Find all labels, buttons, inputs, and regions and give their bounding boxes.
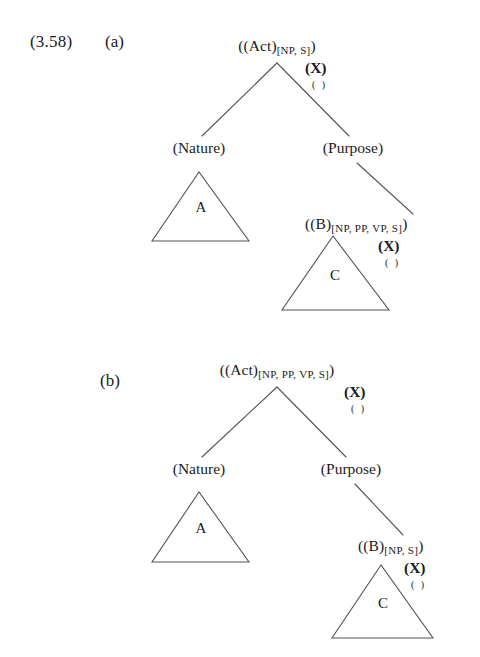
tree-b-root-close: ) xyxy=(329,361,334,378)
tree-b-b-main: ((B) xyxy=(358,537,384,554)
tree-b-root-empty-slot: ( ) xyxy=(351,404,366,414)
tree-a-b-subscript: [NP, PP, VP, S] xyxy=(331,222,402,234)
tree-a-root-close: ) xyxy=(311,37,316,54)
tree-a-b-variable: (X) xyxy=(378,238,400,254)
tree-b-root-node: ((Act)[NP, PP, VP, S]) xyxy=(220,362,335,380)
tree-b-node-b: ((B)[NP, S]) xyxy=(358,538,423,556)
tree-a-node-nature: (Nature) xyxy=(173,140,226,156)
tree-b-root-main: ((Act) xyxy=(220,361,258,378)
tree-a-node-b: ((B)[NP, PP, VP, S]) xyxy=(305,216,407,234)
tree-b-b-close: ) xyxy=(418,537,423,554)
tree-b-branch-purpose-b xyxy=(355,484,403,535)
tree-b-b-empty-slot: ( ) xyxy=(411,580,426,590)
tree-a-branch-root-left xyxy=(202,63,277,136)
tree-b-branch-root-left xyxy=(202,387,277,457)
tree-b-node-nature: (Nature) xyxy=(173,461,226,477)
tree-a-root-empty-slot: ( ) xyxy=(312,80,327,90)
subfigure-label-a: (a) xyxy=(105,33,124,50)
tree-a-b-empty-slot: ( ) xyxy=(385,258,400,268)
tree-b-triangle-c-letter: C xyxy=(378,596,388,611)
tree-b-root-subscript: [NP, PP, VP, S] xyxy=(258,368,329,380)
tree-b-b-subscript: [NP, S] xyxy=(384,544,418,556)
tree-a-triangle-a-letter: A xyxy=(196,200,207,215)
figure-canvas: (3.58) (a) ((Act)[NP, S]) (X) ( ) (Natur… xyxy=(0,0,480,657)
tree-a-root-node: ((Act)[NP, S]) xyxy=(238,38,316,56)
tree-a-root-subscript: [NP, S] xyxy=(277,44,311,56)
tree-a-b-close: ) xyxy=(402,215,407,232)
tree-b-b-variable: (X) xyxy=(404,560,426,576)
tree-b-triangle-a-letter: A xyxy=(196,521,207,536)
tree-a-branch-purpose-b xyxy=(357,163,413,214)
tree-a-b-main: ((B) xyxy=(305,215,331,232)
tree-b-root-variable: (X) xyxy=(344,384,366,400)
tree-b-node-purpose: (Purpose) xyxy=(321,461,381,477)
tree-a-node-purpose: (Purpose) xyxy=(323,140,383,156)
subfigure-label-b: (b) xyxy=(100,372,120,389)
tree-b-branch-root-right xyxy=(277,387,346,457)
tree-a-root-main: ((Act) xyxy=(238,37,276,54)
tree-a-triangle-c-letter: C xyxy=(330,268,340,283)
tree-a-root-variable: (X) xyxy=(305,60,327,76)
example-number: (3.58) xyxy=(30,33,72,50)
